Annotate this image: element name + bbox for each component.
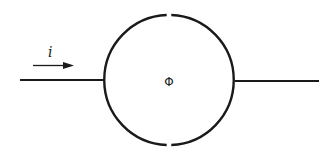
current-arrow-head-icon <box>63 62 74 69</box>
flux-label: Φ <box>164 75 173 89</box>
current-label: i <box>48 44 52 60</box>
element-body-left-arc <box>104 15 166 145</box>
element-body-right-arc <box>171 15 233 145</box>
circuit-diagram: i Φ <box>0 0 335 156</box>
